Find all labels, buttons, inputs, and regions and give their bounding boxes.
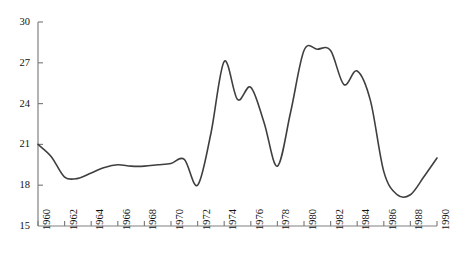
y-tick-label: 27 xyxy=(4,58,30,69)
x-tick-label: 1964 xyxy=(95,209,106,230)
x-tick-label: 1990 xyxy=(441,209,452,230)
y-tick-label: 24 xyxy=(4,99,30,110)
axis-lines xyxy=(38,22,437,226)
x-tick-label: 1976 xyxy=(255,209,266,230)
y-tick-label: 18 xyxy=(4,180,30,191)
x-tick-label: 1970 xyxy=(175,209,186,230)
x-tick-label: 1966 xyxy=(122,209,133,230)
x-tick-label: 1986 xyxy=(388,209,399,230)
x-tick-label: 1988 xyxy=(414,209,425,230)
x-tick-label: 1962 xyxy=(69,209,80,230)
x-tick-label: 1974 xyxy=(228,209,239,230)
y-tick-label: 30 xyxy=(4,17,30,28)
x-tick-label: 1980 xyxy=(308,209,319,230)
x-tick-label: 1968 xyxy=(148,209,159,230)
data-line-series-1 xyxy=(38,46,437,198)
x-tick-label: 1982 xyxy=(335,209,346,230)
x-tick-label: 1984 xyxy=(361,209,372,230)
y-tick-label: 21 xyxy=(4,139,30,150)
y-tick-label: 15 xyxy=(4,221,30,232)
y-tick-marks xyxy=(38,22,43,185)
x-tick-label: 1960 xyxy=(42,209,53,230)
x-tick-label: 1972 xyxy=(202,209,213,230)
x-tick-label: 1978 xyxy=(281,209,292,230)
